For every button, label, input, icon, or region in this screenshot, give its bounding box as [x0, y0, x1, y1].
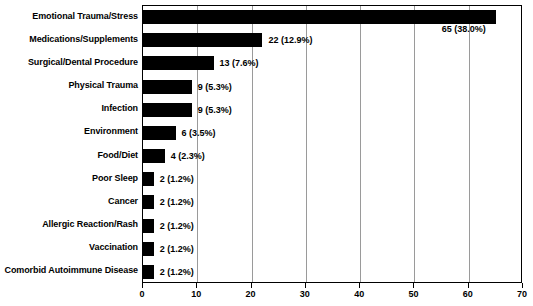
- plot-area: 65 (38.0%)22 (12.9%)13 (7.6%)9 (5.3%)9 (…: [142, 5, 522, 283]
- x-tick-label-40: 40: [354, 289, 364, 300]
- x-tick-label-10: 10: [191, 289, 201, 300]
- bar-row: 65 (38.0%): [143, 6, 521, 29]
- x-tick-40: [359, 283, 360, 288]
- bar: [143, 126, 176, 140]
- x-tick-50: [413, 283, 414, 288]
- bar-value-label: 6 (3.5%): [182, 127, 216, 139]
- x-tick-label-70: 70: [517, 289, 527, 300]
- bar: [143, 172, 154, 186]
- x-tick-0: [142, 283, 143, 288]
- bar: [143, 103, 192, 117]
- bar-value-label: 2 (1.2%): [160, 243, 194, 255]
- bar-value-label: 2 (1.2%): [160, 266, 194, 278]
- x-tick-label-0: 0: [139, 289, 144, 300]
- category-label: Poor Sleep: [0, 174, 138, 183]
- bar: [143, 56, 214, 70]
- x-tick-10: [196, 283, 197, 288]
- bar-row: 22 (12.9%): [143, 29, 521, 52]
- category-label: Food/Diet: [0, 151, 138, 160]
- bar-row: 4 (2.3%): [143, 145, 521, 168]
- bar-row: 9 (5.3%): [143, 99, 521, 122]
- category-label: Cancer: [0, 197, 138, 206]
- x-tick-60: [468, 283, 469, 288]
- y-axis-category-labels: Emotional Trauma/StressMedications/Suppl…: [0, 0, 138, 306]
- bar: [143, 242, 154, 256]
- category-label: Vaccination: [0, 243, 138, 252]
- x-tick-label-30: 30: [300, 289, 310, 300]
- x-tick-70: [522, 283, 523, 288]
- bar: [143, 149, 165, 163]
- bar-row: 9 (5.3%): [143, 76, 521, 99]
- bar-value-label: 2 (1.2%): [160, 196, 194, 208]
- bar: [143, 219, 154, 233]
- bar: [143, 80, 192, 94]
- x-tick-label-50: 50: [408, 289, 418, 300]
- bar: [143, 10, 496, 24]
- bar-value-label: 9 (5.3%): [198, 81, 232, 93]
- category-label: Comorbid Autoimmune Disease: [0, 266, 138, 275]
- category-label: Allergic Reaction/Rash: [0, 220, 138, 229]
- category-label: Environment: [0, 127, 138, 136]
- bar-row: 2 (1.2%): [143, 261, 521, 284]
- bar-value-label: 2 (1.2%): [160, 173, 194, 185]
- horizontal-bar-chart: Emotional Trauma/StressMedications/Suppl…: [0, 0, 533, 306]
- bar: [143, 195, 154, 209]
- x-axis: 010203040506070: [142, 283, 522, 306]
- bar-value-label: 4 (2.3%): [171, 150, 205, 162]
- bar-row: 2 (1.2%): [143, 191, 521, 214]
- bar-series: 65 (38.0%)22 (12.9%)13 (7.6%)9 (5.3%)9 (…: [143, 6, 521, 282]
- bar-value-label: 13 (7.6%): [220, 57, 259, 69]
- bar-row: 6 (3.5%): [143, 122, 521, 145]
- bar-value-label: 22 (12.9%): [268, 34, 312, 46]
- category-label: Emotional Trauma/Stress: [0, 12, 138, 21]
- category-label: Medications/Supplements: [0, 35, 138, 44]
- x-tick-20: [251, 283, 252, 288]
- bar-row: 2 (1.2%): [143, 238, 521, 261]
- category-label: Infection: [0, 104, 138, 113]
- category-label: Surgical/Dental Procedure: [0, 58, 138, 67]
- x-tick-label-20: 20: [246, 289, 256, 300]
- bar-row: 2 (1.2%): [143, 168, 521, 191]
- bar-value-label: 2 (1.2%): [160, 220, 194, 232]
- bar-row: 2 (1.2%): [143, 215, 521, 238]
- bar: [143, 265, 154, 279]
- bar-value-label: 9 (5.3%): [198, 104, 232, 116]
- category-label: Physical Trauma: [0, 81, 138, 90]
- bar-row: 13 (7.6%): [143, 52, 521, 75]
- bar: [143, 33, 262, 47]
- x-tick-label-60: 60: [463, 289, 473, 300]
- x-tick-30: [305, 283, 306, 288]
